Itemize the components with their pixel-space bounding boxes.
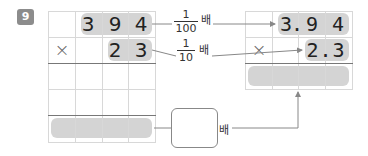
arrows-layer xyxy=(0,0,368,156)
